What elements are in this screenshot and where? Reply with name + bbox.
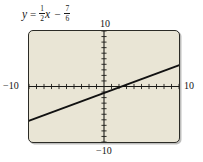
intercept-fraction: 7 6	[64, 5, 70, 22]
y-axis-min-label: −10	[96, 146, 112, 156]
y-axis-max-label: 10	[100, 19, 110, 29]
intercept-denominator: 6	[64, 13, 70, 22]
slope-denominator: 2	[39, 13, 45, 22]
slope-fraction: 1 2	[39, 5, 45, 22]
x-axis-min-label: −10	[3, 81, 19, 91]
equation-equals-sign: =	[30, 8, 36, 20]
slope-numerator: 1	[39, 5, 45, 13]
equation-lhs: y	[22, 8, 27, 20]
equation-minus-sign: −	[54, 8, 60, 20]
intercept-numerator: 7	[64, 5, 70, 13]
equation-expression: y = 1 2 x − 7 6	[22, 3, 70, 25]
graph-plot	[29, 31, 179, 142]
x-axis-max-label: 10	[184, 81, 194, 91]
graph-viewing-window	[28, 30, 180, 143]
equation-variable-x: x	[45, 8, 50, 20]
